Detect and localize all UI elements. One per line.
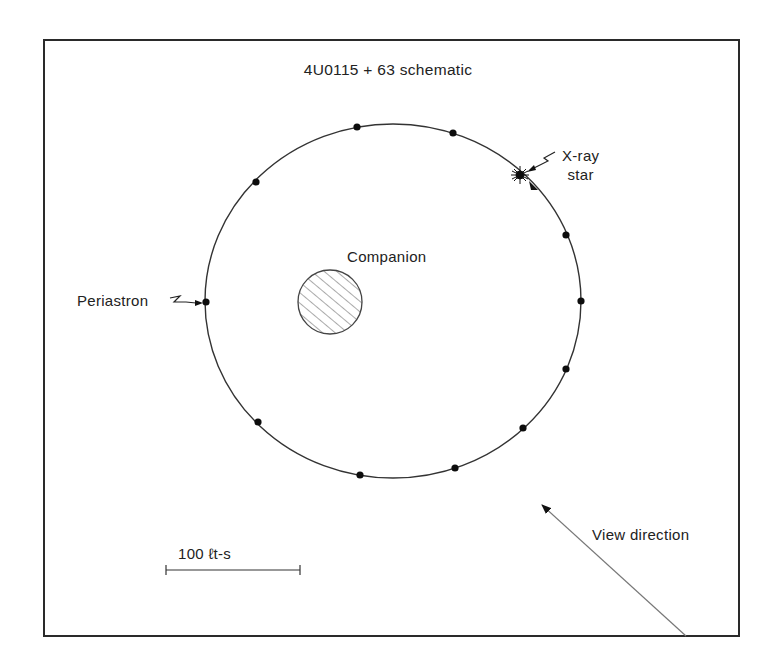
phase-point — [562, 231, 569, 238]
xray-star-label: X-ray star — [562, 146, 599, 184]
orbit-direction-arrow-icon — [529, 181, 538, 190]
phase-point — [356, 471, 363, 478]
diagram-title: 4U0115 + 63 schematic — [0, 61, 776, 79]
periastron-leader-arrowhead-icon — [195, 300, 203, 306]
xray-star-icon — [511, 166, 529, 184]
phase-point — [449, 129, 456, 136]
scale-bar-label: 100 ℓt-s — [178, 545, 231, 562]
scale-bar — [166, 565, 300, 575]
diagram-frame — [44, 40, 739, 636]
phase-point — [577, 297, 584, 304]
phase-point — [451, 464, 458, 471]
xray-star-label-line2: star — [562, 165, 599, 184]
phase-point — [252, 178, 259, 185]
companion-label: Companion — [347, 248, 426, 265]
phase-point — [519, 424, 526, 431]
view-direction-arrow — [542, 505, 686, 636]
periastron-label: Periastron — [77, 292, 148, 309]
phase-point — [254, 418, 261, 425]
xray-leader-arrowhead-icon — [527, 165, 536, 172]
xray-star-label-line1: X-ray — [562, 146, 599, 165]
periastron-leader — [170, 296, 196, 303]
companion-star — [298, 270, 362, 334]
phase-point — [562, 365, 569, 372]
schematic-canvas — [0, 0, 776, 672]
phase-point — [353, 123, 360, 130]
view-direction-label: View direction — [592, 526, 689, 543]
periastron-point — [202, 298, 209, 305]
